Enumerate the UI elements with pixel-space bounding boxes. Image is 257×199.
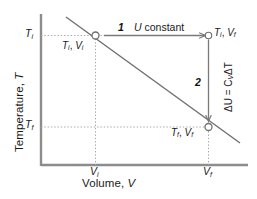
state-initial-v: V	[75, 40, 82, 51]
process-1-label: U constant	[134, 22, 184, 33]
x-axis-title-text: Volume,	[82, 177, 128, 189]
state-label-final: Tf, Vf	[171, 128, 193, 139]
x-axis-title: Volume, V	[82, 178, 135, 190]
x-tick-label-vf: Vf	[203, 166, 212, 179]
x-tick-vi-symbol: V	[90, 165, 97, 177]
x-tick-label-vi: Vi	[90, 166, 99, 179]
process-2-delta-u: ΔU	[223, 98, 234, 112]
x-tick-vf-symbol: V	[203, 165, 210, 177]
state-intermediate-v-sub: f	[234, 31, 236, 38]
state-initial-v-sub: i	[82, 44, 84, 51]
x-tick-vf-sub: f	[210, 171, 212, 179]
y-axis-title-symbol: T	[13, 73, 25, 80]
state-label-intermediate: Ti, Vf	[214, 28, 236, 39]
y-tick-ti-sub: i	[31, 33, 33, 41]
process-1-symbol: U	[134, 21, 142, 33]
thermodynamic-diagram: Temperature, T Volume, V Ti Tf Vi Vf Ti,…	[0, 0, 257, 199]
y-axis-title-text: Temperature,	[13, 80, 25, 152]
process-2-c: C	[223, 79, 234, 86]
x-axis-title-symbol: V	[128, 177, 136, 189]
state-label-initial: Ti, Vi	[62, 41, 83, 52]
y-tick-tf-sub: f	[31, 124, 33, 132]
process-2-delta-t: ΔT	[223, 62, 234, 75]
y-axis-title: Temperature, T	[14, 73, 26, 152]
y-tick-label-tf: Tf	[25, 119, 33, 132]
state-marker-final	[205, 124, 212, 131]
process-1-text: constant	[142, 21, 185, 33]
y-tick-label-ti: Ti	[25, 28, 33, 41]
process-2-c-sub: V	[227, 75, 234, 80]
process-2-number: 2	[195, 77, 201, 88]
state-marker-intermediate	[205, 32, 211, 38]
x-tick-vi-sub: i	[97, 171, 99, 179]
process-2-equals: =	[223, 87, 234, 98]
state-intermediate-v: V	[227, 27, 234, 38]
state-final-v-sub: f	[191, 131, 193, 138]
process-2-label: ΔU = CVΔT	[224, 62, 235, 112]
state-marker-initial	[92, 32, 99, 39]
process-1-number: 1	[118, 22, 124, 33]
